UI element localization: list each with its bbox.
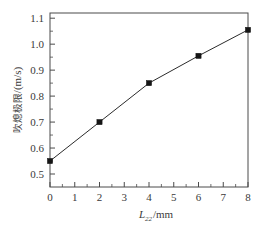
x-axis-title-unit: /mm xyxy=(153,208,174,220)
y-tick-label: 0.6 xyxy=(30,142,44,154)
x-tick-label: 3 xyxy=(122,191,128,203)
x-tick-label: 2 xyxy=(97,191,103,203)
x-tick-label: 0 xyxy=(47,191,53,203)
x-axis-title: L22/mm xyxy=(138,208,174,223)
x-tick-label: 5 xyxy=(171,191,177,203)
y-axis-title-text: 吹熄极限/(m/s) xyxy=(11,67,24,134)
x-axis-title-subscript: 22 xyxy=(145,215,153,223)
y-tick-label: 0.7 xyxy=(30,116,44,128)
plot-frame xyxy=(50,13,248,187)
chart-figure: 0.50.60.70.80.91.01.1012345678L22/mm吹熄极限… xyxy=(0,0,271,237)
y-tick-label: 1.1 xyxy=(30,12,44,24)
y-tick-label: 0.8 xyxy=(30,90,44,102)
x-tick-label: 4 xyxy=(146,191,152,203)
x-tick-label: 8 xyxy=(245,191,251,203)
y-tick-label: 0.9 xyxy=(30,64,44,76)
x-tick-label: 7 xyxy=(221,191,227,203)
line-chart: 0.50.60.70.80.91.01.1012345678L22/mm吹熄极限… xyxy=(0,0,271,237)
x-tick-label: 6 xyxy=(196,191,202,203)
y-tick-label: 0.5 xyxy=(30,168,44,180)
y-axis-title: 吹熄极限/(m/s) xyxy=(11,67,24,134)
data-point-marker xyxy=(146,81,151,86)
series-line-blowoff-limit xyxy=(50,30,248,161)
data-point-marker xyxy=(97,119,102,124)
data-point-marker xyxy=(245,27,250,32)
x-tick-label: 1 xyxy=(72,191,78,203)
y-tick-label: 1.0 xyxy=(30,38,44,50)
data-point-marker xyxy=(196,53,201,58)
data-point-marker xyxy=(47,158,52,163)
